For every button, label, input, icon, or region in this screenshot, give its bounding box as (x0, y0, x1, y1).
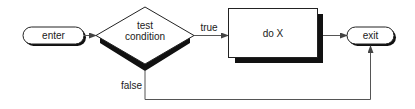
enter-node: enter (23, 27, 86, 46)
enter-node-label: enter (42, 30, 65, 41)
exit-node-label: exit (363, 30, 379, 41)
test-condition-node: test condition (96, 7, 194, 71)
do-x-node: do X (229, 9, 324, 64)
edge-true-label: true (200, 22, 218, 33)
test-condition-label-line2: condition (125, 31, 165, 42)
do-x-node-label: do X (263, 28, 284, 39)
flowchart-canvas: enter test condition true do X exit fals… (0, 0, 415, 109)
exit-node: exit (347, 27, 396, 46)
test-condition-label-line1: test (137, 20, 153, 31)
edge-false-label: false (121, 80, 143, 91)
